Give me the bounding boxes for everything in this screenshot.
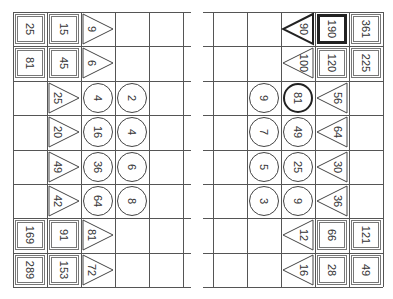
circle-tile[interactable]: 8 — [117, 186, 147, 216]
grid-cell[interactable] — [149, 253, 183, 287]
grid-cell[interactable] — [13, 81, 47, 115]
square-tile[interactable]: 289 — [15, 255, 45, 285]
grid-cell[interactable]: 16 — [281, 253, 315, 287]
grid-cell[interactable]: 81 — [13, 46, 47, 80]
circle-tile[interactable]: 9 — [249, 83, 279, 113]
grid-cell[interactable]: 49 — [281, 115, 315, 149]
grid-cell[interactable] — [213, 150, 247, 184]
grid-cell[interactable]: 6 — [115, 150, 149, 184]
circle-tile[interactable]: 3 — [249, 186, 279, 216]
grid-cell[interactable] — [213, 184, 247, 218]
grid-cell[interactable] — [349, 184, 383, 218]
circle-tile[interactable]: 6 — [117, 152, 147, 182]
grid-cell[interactable] — [349, 150, 383, 184]
grid-cell[interactable]: 121 — [349, 218, 383, 252]
grid-cell[interactable] — [247, 46, 281, 80]
grid-cell[interactable] — [213, 218, 247, 252]
grid-cell[interactable] — [13, 150, 47, 184]
grid-cell[interactable]: 20 — [47, 115, 81, 149]
grid-cell[interactable]: 56 — [315, 81, 349, 115]
square-tile[interactable]: 45 — [49, 48, 79, 78]
square-tile[interactable]: 25 — [15, 14, 45, 44]
square-tile[interactable]: 120 — [317, 48, 347, 78]
grid-cell[interactable] — [213, 115, 247, 149]
grid-cell[interactable]: 9 — [281, 184, 315, 218]
square-tile[interactable]: 121 — [351, 220, 381, 250]
square-tile[interactable]: 190 — [317, 14, 347, 44]
grid-cell[interactable]: 49 — [47, 150, 81, 184]
grid-cell[interactable] — [349, 115, 383, 149]
square-tile[interactable]: 15 — [49, 14, 79, 44]
grid-cell[interactable]: 28 — [315, 253, 349, 287]
grid-cell[interactable]: 25 — [47, 81, 81, 115]
grid-cell[interactable]: 169 — [13, 218, 47, 252]
grid-cell[interactable]: 361 — [349, 12, 383, 46]
circle-tile[interactable]: 25 — [283, 152, 313, 182]
grid-cell[interactable]: 9 — [247, 81, 281, 115]
grid-cell[interactable] — [115, 218, 149, 252]
grid-cell[interactable] — [115, 253, 149, 287]
square-tile[interactable]: 81 — [15, 48, 45, 78]
grid-cell[interactable] — [149, 218, 183, 252]
square-tile[interactable]: 153 — [49, 255, 79, 285]
grid-cell[interactable] — [349, 81, 383, 115]
grid-cell[interactable]: 72 — [81, 253, 115, 287]
grid-cell[interactable]: 6 — [81, 46, 115, 80]
grid-cell[interactable] — [213, 12, 247, 46]
grid-cell[interactable]: 16 — [81, 115, 115, 149]
grid-cell[interactable]: 8 — [115, 184, 149, 218]
grid-cell[interactable]: 42 — [47, 184, 81, 218]
grid-cell[interactable] — [115, 46, 149, 80]
grid-cell[interactable] — [213, 253, 247, 287]
grid-cell[interactable] — [115, 12, 149, 46]
circle-tile[interactable]: 4 — [83, 83, 113, 113]
grid-cell[interactable]: 153 — [47, 253, 81, 287]
grid-cell[interactable]: 36 — [81, 150, 115, 184]
grid-cell[interactable]: 64 — [315, 115, 349, 149]
square-tile[interactable]: 91 — [49, 220, 79, 250]
circle-tile[interactable]: 7 — [249, 117, 279, 147]
grid-cell[interactable]: 30 — [315, 150, 349, 184]
grid-cell[interactable] — [149, 12, 183, 46]
grid-cell[interactable] — [213, 81, 247, 115]
square-tile[interactable]: 225 — [351, 48, 381, 78]
grid-cell[interactable]: 25 — [281, 150, 315, 184]
grid-cell[interactable]: 91 — [47, 218, 81, 252]
circle-tile[interactable]: 5 — [249, 152, 279, 182]
circle-tile[interactable]: 36 — [83, 152, 113, 182]
grid-cell[interactable]: 120 — [315, 46, 349, 80]
grid-cell[interactable]: 81 — [81, 218, 115, 252]
grid-cell[interactable]: 49 — [349, 253, 383, 287]
grid-cell[interactable]: 2 — [115, 81, 149, 115]
grid-cell[interactable]: 100 — [281, 46, 315, 80]
grid-cell[interactable]: 289 — [13, 253, 47, 287]
grid-cell[interactable]: 45 — [47, 46, 81, 80]
circle-tile[interactable]: 49 — [283, 117, 313, 147]
grid-cell[interactable] — [149, 115, 183, 149]
grid-cell[interactable] — [13, 115, 47, 149]
grid-cell[interactable] — [149, 81, 183, 115]
grid-cell[interactable] — [149, 150, 183, 184]
grid-cell[interactable]: 5 — [247, 150, 281, 184]
grid-cell[interactable]: 90 — [281, 12, 315, 46]
grid-cell[interactable]: 3 — [247, 184, 281, 218]
square-tile[interactable]: 66 — [317, 220, 347, 250]
square-tile[interactable]: 361 — [351, 14, 381, 44]
circle-tile[interactable]: 2 — [117, 83, 147, 113]
grid-cell[interactable]: 25 — [13, 12, 47, 46]
grid-cell[interactable] — [213, 46, 247, 80]
grid-cell[interactable]: 4 — [81, 81, 115, 115]
circle-tile[interactable]: 9 — [283, 186, 313, 216]
grid-cell[interactable] — [247, 12, 281, 46]
grid-cell[interactable] — [247, 218, 281, 252]
grid-cell[interactable] — [247, 253, 281, 287]
grid-cell[interactable] — [13, 184, 47, 218]
grid-cell[interactable]: 225 — [349, 46, 383, 80]
grid-cell[interactable]: 9 — [81, 12, 115, 46]
grid-cell[interactable]: 36 — [315, 184, 349, 218]
circle-tile[interactable]: 64 — [83, 186, 113, 216]
grid-cell[interactable]: 66 — [315, 218, 349, 252]
circle-tile[interactable]: 4 — [117, 117, 147, 147]
circle-tile[interactable]: 81 — [283, 83, 313, 113]
square-tile[interactable]: 169 — [15, 220, 45, 250]
